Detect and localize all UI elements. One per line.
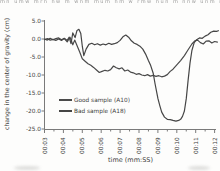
legend: Good sample (A10) Bad sample (A18)	[59, 94, 130, 116]
x-tick-label: 00:06	[98, 137, 104, 154]
x-tick-label: 00:08	[136, 137, 142, 154]
figure-chart: mn umw mrn nw m wnm mum nm w rmw nun m n…	[0, 0, 220, 171]
legend-label-bad: Bad sample (A18)	[74, 108, 126, 114]
x-tick-label: 00:03	[42, 137, 48, 154]
y-tick-label: -15.0	[19, 90, 41, 97]
y-tick-label: 0.0	[19, 36, 41, 43]
x-axis-title: time (mm:SS)	[45, 156, 216, 164]
scan-artifact	[14, 166, 40, 170]
x-tick-label: 00:10	[174, 137, 180, 154]
scan-artifact	[188, 166, 210, 170]
x-tick-label: 00:07	[117, 137, 123, 154]
legend-label-good: Good sample (A10)	[74, 97, 130, 103]
x-tick-label: 00:12	[212, 137, 218, 154]
plot-area	[0, 0, 220, 171]
legend-item-bad: Bad sample (A18)	[59, 105, 130, 116]
good-sample-line-swatch	[59, 99, 72, 101]
y-tick-label: -10.0	[19, 72, 41, 79]
bad-sample-line-swatch	[59, 110, 72, 112]
x-tick-label: 00:11	[193, 137, 199, 154]
y-axis-title: change in the center of gravity (cm)	[3, 18, 10, 130]
x-tick-label: 00:09	[155, 137, 161, 154]
y-tick-label: -5.0	[19, 54, 41, 61]
legend-item-good: Good sample (A10)	[59, 94, 130, 105]
y-tick-label: -20.0	[19, 108, 41, 115]
y-tick-label: -25.0	[19, 126, 41, 133]
y-tick-label: 5.0	[19, 18, 41, 25]
x-tick-label: 00:04	[60, 137, 66, 154]
x-tick-label: 00:05	[79, 137, 85, 154]
